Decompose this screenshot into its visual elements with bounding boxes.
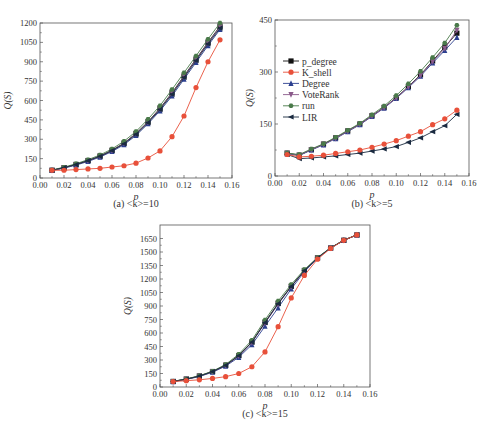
y-tick-label: 0 (33, 173, 37, 183)
x-tick-label: 0.16 (225, 180, 240, 190)
y-tick-label: 1200 (140, 274, 157, 284)
x-tick-label: 0.12 (413, 178, 428, 188)
square-marker-icon (288, 58, 293, 63)
circle-marker-icon (184, 378, 189, 383)
y-tick-label: 150 (24, 154, 37, 164)
triangle-left-marker-icon (405, 140, 411, 145)
legend: p_degreeK_shellDegreeVoteRankrunLIR (283, 57, 340, 123)
series-p_degree (171, 232, 360, 384)
circle-marker-icon (369, 145, 374, 150)
y-tick-label: 600 (144, 328, 157, 338)
y-tick-label: 900 (24, 57, 37, 67)
legend-item-run: run (283, 101, 315, 111)
series-voterank (171, 232, 360, 384)
circle-marker-icon (197, 377, 202, 382)
circle-marker-icon (109, 164, 114, 169)
circle-marker-icon (357, 147, 362, 152)
y-tick-label: 750 (144, 315, 157, 325)
circle-marker-icon (454, 108, 459, 113)
y-tick-label: 300 (24, 134, 37, 144)
caption-c: (c) <k>=15 (160, 408, 370, 419)
x-tick-label: 0.06 (231, 389, 246, 399)
x-tick-label: 0.04 (81, 180, 97, 190)
triangle-left-marker-icon (442, 123, 448, 128)
legend-item-k_shell: K_shell (283, 68, 332, 78)
circle-marker-icon (418, 129, 423, 134)
legend-label: p_degree (302, 57, 337, 67)
legend-label: VoteRank (302, 90, 340, 100)
y-tick-label: 1200 (20, 18, 37, 28)
legend-label: run (302, 101, 315, 111)
triangle-left-marker-icon (417, 135, 423, 140)
circle-marker-icon (171, 379, 176, 384)
plot-frame (160, 225, 370, 387)
x-tick-label: 0.02 (179, 389, 194, 399)
y-tick-label: 450 (144, 342, 157, 352)
circle-marker-icon (321, 153, 326, 158)
y-tick-label: 1050 (20, 37, 37, 47)
hexagon-marker-icon (288, 104, 293, 109)
circle-marker-icon (73, 167, 78, 172)
circle-marker-icon (288, 70, 293, 75)
circle-marker-icon (181, 113, 186, 118)
legend-item-degree: Degree (283, 79, 329, 89)
legend-item-lir: LIR (283, 113, 318, 123)
circle-marker-icon (262, 349, 267, 354)
y-tick-label: 900 (144, 301, 157, 311)
circle-marker-icon (341, 238, 346, 243)
circle-marker-icon (289, 295, 294, 300)
circle-marker-icon (169, 134, 174, 139)
circle-marker-icon (315, 257, 320, 262)
circle-marker-icon (217, 37, 222, 42)
circle-marker-icon (302, 273, 307, 278)
triangle-left-marker-icon (288, 114, 294, 119)
x-tick-label: 0.10 (284, 389, 299, 399)
x-tick-label: 0.02 (57, 180, 72, 190)
circle-marker-icon (236, 371, 241, 376)
series-voterank (49, 24, 222, 173)
hexagon-marker-icon (454, 23, 459, 28)
x-tick-label: 0.06 (340, 178, 355, 188)
x-tick-label: 0.14 (336, 389, 352, 399)
circle-marker-icon (223, 374, 228, 379)
circle-marker-icon (333, 151, 338, 156)
x-tick-label: 0.04 (316, 178, 332, 188)
circle-marker-icon (205, 59, 210, 64)
series-p_degree (49, 24, 222, 173)
x-tick-label: 0.06 (105, 180, 120, 190)
x-tick-label: 0.12 (177, 180, 192, 190)
circle-marker-icon (193, 85, 198, 90)
circle-marker-icon (276, 324, 281, 329)
triangle-left-marker-icon (393, 144, 399, 149)
y-tick-label: 150 (144, 369, 157, 379)
series-lir (170, 232, 360, 384)
circle-marker-icon (145, 155, 150, 160)
x-tick-label: 0.02 (292, 178, 307, 188)
x-tick-label: 0.14 (201, 180, 217, 190)
circle-marker-icon (121, 163, 126, 168)
y-tick-label: 150 (259, 119, 272, 129)
caption-b: (b) <k>=5 (275, 198, 469, 209)
y-tick-label: 1500 (140, 247, 157, 257)
chart-b: 0.000.020.040.060.080.100.120.140.160150… (245, 0, 490, 200)
y-tick-label: 1650 (140, 234, 157, 244)
legend-label: LIR (302, 113, 318, 123)
y-axis-label: Q(S) (123, 297, 134, 315)
triangle-left-marker-icon (381, 146, 387, 151)
y-axis-label: Q(S) (3, 92, 14, 110)
y-tick-label: 0 (268, 171, 272, 181)
legend-item-p_degree: p_degree (283, 57, 337, 67)
x-tick-label: 0.04 (205, 389, 221, 399)
y-tick-label: 300 (144, 355, 157, 365)
series-k_shell (171, 232, 360, 384)
y-tick-label: 750 (24, 76, 37, 86)
x-tick-label: 0.08 (365, 178, 380, 188)
circle-marker-icon (133, 161, 138, 166)
y-tick-label: 600 (24, 96, 37, 106)
legend-label: Degree (302, 79, 329, 89)
series-run (171, 232, 360, 383)
x-tick-label: 0.08 (129, 180, 144, 190)
y-tick-label: 1350 (140, 261, 157, 271)
circle-marker-icon (61, 168, 66, 173)
x-tick-label: 0.10 (389, 178, 404, 188)
